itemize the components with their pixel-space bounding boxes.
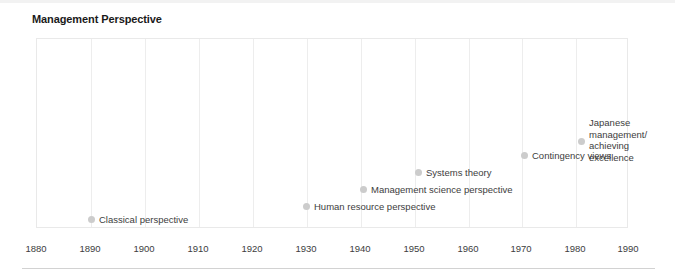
data-point[interactable]: Management science perspective xyxy=(360,184,513,196)
data-point-marker-dot xyxy=(415,169,422,176)
gridline-1930 xyxy=(307,39,308,227)
data-point-label: Systems theory xyxy=(426,167,491,179)
x-axis-tick-label-1990: 1990 xyxy=(617,243,638,254)
x-axis: 1880189019001910192019301940195019601970… xyxy=(0,243,675,259)
gridline-1920 xyxy=(253,39,254,227)
data-point-label: Classical perspective xyxy=(99,214,188,226)
data-point-label: Management science perspective xyxy=(371,184,513,196)
data-point-marker-dot xyxy=(88,216,95,223)
gridline-1910 xyxy=(199,39,200,227)
data-point[interactable]: Human resource perspective xyxy=(303,201,435,213)
x-axis-tick-label-1950: 1950 xyxy=(403,243,424,254)
gridline-1900 xyxy=(145,39,146,227)
x-axis-tick-label-1910: 1910 xyxy=(187,243,208,254)
x-axis-tick-label-1930: 1930 xyxy=(295,243,316,254)
data-point-label: Japanesemanagement/achievingexcellence xyxy=(589,117,647,163)
data-point[interactable]: Systems theory xyxy=(415,167,491,179)
timeline-chart-figure: Management Perspective Classical perspec… xyxy=(0,0,675,277)
plot-area xyxy=(36,38,628,228)
chart-title: Management Perspective xyxy=(32,13,162,25)
bottom-divider xyxy=(22,268,655,269)
x-axis-tick-label-1980: 1980 xyxy=(564,243,585,254)
gridline-1980 xyxy=(576,39,577,227)
x-axis-tick-label-1900: 1900 xyxy=(133,243,154,254)
data-point-label: Human resource perspective xyxy=(314,201,435,213)
x-axis-tick-label-1940: 1940 xyxy=(349,243,370,254)
data-point-marker-dot xyxy=(578,138,585,145)
gridline-1970 xyxy=(522,39,523,227)
x-axis-tick-label-1890: 1890 xyxy=(79,243,100,254)
data-point[interactable]: Japanesemanagement/achievingexcellence xyxy=(578,117,647,163)
data-point[interactable]: Classical perspective xyxy=(88,214,188,226)
x-axis-tick-label-1880: 1880 xyxy=(25,243,46,254)
data-point-marker-dot xyxy=(303,203,310,210)
gridline-1960 xyxy=(469,39,470,227)
data-point-marker-dot xyxy=(521,152,528,159)
gridline-1950 xyxy=(415,39,416,227)
x-axis-tick-label-1920: 1920 xyxy=(241,243,262,254)
x-axis-tick-label-1960: 1960 xyxy=(457,243,478,254)
data-point-marker-dot xyxy=(360,186,367,193)
gridline-1890 xyxy=(91,39,92,227)
gridline-1940 xyxy=(361,39,362,227)
top-edge-band xyxy=(0,0,675,3)
x-axis-tick-label-1970: 1970 xyxy=(510,243,531,254)
